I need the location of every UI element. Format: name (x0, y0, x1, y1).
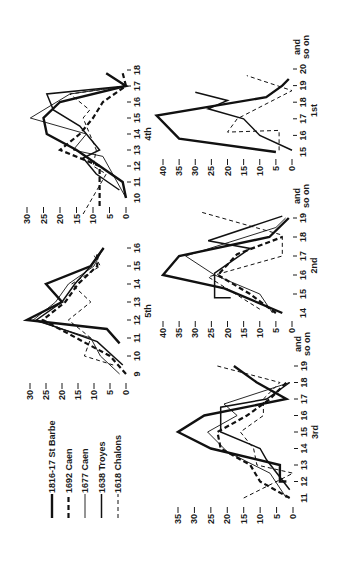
series-line-1677-caen (30, 86, 126, 198)
y-tick-label: 15 (239, 514, 249, 524)
x-tick-label: 14 (299, 443, 309, 453)
y-tick-label: 0 (288, 514, 298, 519)
x-tick-label: 15 (132, 113, 142, 123)
y-tick-label: 30 (25, 390, 35, 400)
y-tick-label: 5 (272, 514, 282, 519)
y-tick-label: 0 (287, 166, 297, 171)
y-tick-label: 15 (72, 214, 82, 224)
y-tick-label: 5 (271, 166, 281, 171)
y-tick-label: 5 (271, 328, 281, 333)
y-tick-label: 20 (57, 390, 67, 400)
panel-title: 5th (143, 304, 153, 318)
x-tick-label: 13 (299, 460, 309, 470)
legend-item: 1692 Caen (64, 448, 74, 518)
y-tick-label: 25 (206, 328, 216, 338)
x-tick-label: 13 (132, 297, 142, 307)
x-tick-label: 18 (298, 232, 308, 242)
x-tick-label: 15 (298, 289, 308, 299)
x-tick-label: 12 (132, 161, 142, 171)
x-tick-label: 18 (132, 65, 142, 75)
y-tick-label: 25 (206, 166, 216, 176)
x-end-label: so on (301, 35, 311, 59)
x-tick-label: 9 (132, 371, 142, 376)
y-tick-label: 20 (55, 214, 65, 224)
y-tick-label: 0 (121, 390, 131, 395)
legend-label: 1816-17 St Barbe (47, 420, 57, 493)
legend-item: 1618 Chalons (113, 435, 123, 518)
x-tick-label: 16 (299, 410, 309, 420)
legend-label: 1618 Chalons (113, 435, 123, 493)
x-tick-label: 19 (298, 81, 308, 91)
y-tick-label: 5 (105, 214, 115, 219)
x-tick-label: 11 (299, 493, 309, 503)
y-tick-label: 30 (189, 514, 199, 524)
panel-4th: 0510152025301011121314151617184th (22, 65, 153, 224)
y-tick-label: 35 (174, 166, 184, 176)
y-tick-label: 15 (239, 166, 249, 176)
figure: 0510152025303540151617181920andso on1st0… (0, 0, 339, 562)
x-end-label: so on (301, 184, 311, 208)
panel-title: 1st (309, 104, 319, 117)
x-tick-label: 14 (132, 129, 142, 139)
y-tick-label: 25 (206, 514, 216, 524)
y-tick-label: 20 (222, 514, 232, 524)
x-tick-label: 12 (299, 476, 309, 486)
y-tick-label: 35 (173, 514, 183, 524)
y-tick-label: 10 (89, 390, 99, 400)
x-tick-label: 15 (298, 147, 308, 157)
x-tick-label: 20 (298, 64, 308, 74)
y-tick-label: 25 (39, 214, 49, 224)
x-tick-label: 15 (299, 427, 309, 437)
panel-title: 3rd (310, 425, 320, 439)
x-tick-label: 11 (132, 177, 142, 187)
y-tick-label: 10 (255, 514, 265, 524)
x-tick-label: 14 (132, 279, 142, 289)
x-tick-label: 17 (299, 394, 309, 404)
y-tick-label: 15 (73, 390, 83, 400)
x-tick-label: 10 (132, 193, 142, 203)
x-tick-label: 11 (132, 333, 142, 343)
x-tick-label: 18 (299, 377, 309, 387)
x-tick-label: 16 (132, 97, 142, 107)
series-line-1816-17-st-barbe (157, 79, 289, 152)
series-line-1816-17-st-barbe (27, 248, 120, 343)
rotated-figure: 0510152025303540151617181920andso on1st0… (22, 35, 320, 524)
y-tick-label: 15 (239, 328, 249, 338)
legend-item: 1638 Troyes (97, 441, 107, 518)
x-tick-label: 12 (132, 315, 142, 325)
panel-1st: 0510152025303540151617181920andso on1st (157, 35, 319, 176)
x-tick-label: 19 (299, 361, 309, 371)
y-tick-label: 20 (223, 166, 233, 176)
y-tick-label: 20 (223, 328, 233, 338)
series-line-1638-troyes (208, 216, 282, 298)
legend-label: 1638 Troyes (97, 441, 107, 493)
y-tick-label: 25 (41, 390, 51, 400)
y-tick-label: 10 (255, 166, 265, 176)
legend-label: 1677 Caen (80, 448, 90, 493)
panel-title: 2nd (309, 257, 319, 273)
x-tick-label: 17 (298, 114, 308, 124)
legend: 1816-17 St Barbe1692 Caen1677 Caen1638 T… (47, 420, 123, 518)
x-tick-label: 15 (132, 261, 142, 271)
y-tick-label: 30 (22, 214, 32, 224)
panel-2nd: 0510152025303540141516171819andso on2nd (158, 184, 319, 338)
y-tick-label: 40 (158, 328, 168, 338)
x-tick-label: 16 (132, 243, 142, 253)
y-tick-label: 30 (190, 166, 200, 176)
x-tick-label: 14 (298, 308, 308, 318)
panel-title: 4th (143, 127, 153, 141)
x-tick-label: 18 (298, 97, 308, 107)
x-tick-label: 10 (132, 351, 142, 361)
y-tick-label: 10 (255, 328, 265, 338)
y-tick-label: 40 (158, 166, 168, 176)
x-end-label: so on (302, 332, 312, 356)
x-tick-label: 16 (298, 270, 308, 280)
y-tick-label: 5 (105, 390, 115, 395)
y-tick-label: 30 (190, 328, 200, 338)
x-tick-label: 17 (298, 251, 308, 261)
y-tick-label: 0 (121, 214, 131, 219)
x-tick-label: 13 (132, 145, 142, 155)
panel-3rd: 05101520253035111213141516171819andso on… (173, 332, 320, 524)
y-tick-label: 10 (88, 214, 98, 224)
x-tick-label: 16 (298, 130, 308, 140)
